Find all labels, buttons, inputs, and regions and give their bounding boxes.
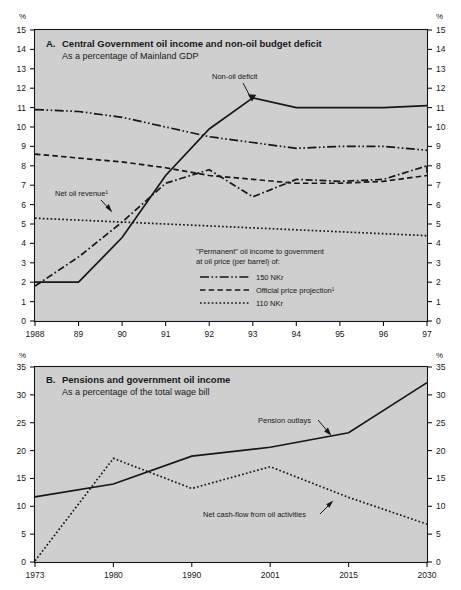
panel-b-unit-right: % <box>436 351 443 360</box>
panel-a: % % 001122334455667788991010111112121313… <box>17 12 446 339</box>
y-tick-label: 20 <box>17 446 27 456</box>
y-tick-label: 10 <box>17 501 27 511</box>
panel-a-annotation-net-oil-revenue: Net oil revenue¹ <box>55 189 108 198</box>
y-tick-label: 15 <box>17 25 27 35</box>
y-tick-label: 30 <box>436 390 446 400</box>
y-tick-label: 4 <box>21 238 26 248</box>
y-tick-label: 13 <box>436 64 446 74</box>
x-tick-label: 95 <box>335 329 345 339</box>
panel-a-x-axis: 1988899091929394959697 <box>26 321 432 339</box>
y-tick-label: 12 <box>436 83 446 93</box>
y-tick-label: 1 <box>436 297 441 307</box>
legend-heading-line2: at oil price (per barrel) of: <box>196 257 280 266</box>
panel-b-title: Pensions and government oil income <box>62 374 230 385</box>
panel-a-subtitle: As a percentage of Mainland GDP <box>62 51 199 61</box>
y-tick-label: 11 <box>436 103 445 113</box>
panel-b-subtitle: As a percentage of the total wage bill <box>62 387 210 397</box>
y-tick-label: 0 <box>436 316 441 326</box>
y-tick-label: 20 <box>436 446 446 456</box>
y-tick-label: 35 <box>17 362 27 372</box>
y-tick-label: 15 <box>436 473 446 483</box>
y-tick-label: 3 <box>21 258 26 268</box>
y-tick-label: 9 <box>436 141 441 151</box>
y-tick-label: 15 <box>436 25 446 35</box>
y-tick-label: 6 <box>21 200 26 210</box>
x-tick-label: 2001 <box>261 570 280 580</box>
y-tick-label: 12 <box>17 83 27 93</box>
panel-b-annotation-net-cash-flow: Net cash-flow from oil activities <box>203 510 306 519</box>
y-tick-label: 14 <box>436 44 446 54</box>
y-tick-label: 9 <box>21 141 26 151</box>
y-tick-label: 30 <box>17 390 27 400</box>
panel-a-annotation-non-oil-deficit: Non-oil deficit <box>212 72 258 81</box>
panel-a-title: Central Government oil income and non-oi… <box>62 38 323 49</box>
x-tick-label: 1973 <box>26 570 45 580</box>
figure-root: % % 001122334455667788991010111112121313… <box>0 0 461 590</box>
y-tick-label: 35 <box>436 362 446 372</box>
legend-label-150nkr: 150 NKr <box>256 273 284 282</box>
x-tick-label: 93 <box>248 329 258 339</box>
panel-a-unit-left: % <box>19 12 26 21</box>
y-tick-label: 13 <box>17 64 27 74</box>
figure-svg: % % 001122334455667788991010111112121313… <box>0 0 461 590</box>
legend-label-110nkr: 110 NKr <box>256 299 283 308</box>
x-tick-label: 2030 <box>418 570 437 580</box>
y-tick-label: 5 <box>21 219 26 229</box>
legend-label-official-price-projection: Official price projection¹ <box>256 286 335 295</box>
y-tick-label: 14 <box>17 44 27 54</box>
panel-b: % % 0055101015152020252530303535 1973198… <box>17 351 446 580</box>
y-tick-label: 10 <box>17 122 27 132</box>
y-tick-label: 0 <box>21 316 26 326</box>
x-tick-label: 91 <box>161 329 171 339</box>
panel-b-letter: B. <box>46 374 56 385</box>
panel-b-x-axis: 197319801990200120152030 <box>26 562 437 580</box>
y-tick-label: 10 <box>436 501 446 511</box>
y-tick-label: 7 <box>436 180 441 190</box>
y-tick-label: 25 <box>17 418 27 428</box>
y-tick-label: 5 <box>21 529 26 539</box>
x-tick-label: 90 <box>117 329 127 339</box>
chart-canvas: % % 001122334455667788991010111112121313… <box>0 0 461 590</box>
y-tick-label: 8 <box>436 161 441 171</box>
x-tick-label: 92 <box>204 329 214 339</box>
y-tick-label: 4 <box>436 238 441 248</box>
y-tick-label: 6 <box>436 200 441 210</box>
y-tick-label: 1 <box>21 297 26 307</box>
y-tick-label: 7 <box>21 180 26 190</box>
x-tick-label: 94 <box>292 329 302 339</box>
x-tick-label: 96 <box>379 329 389 339</box>
panel-a-letter: A. <box>46 38 56 49</box>
panel-b-unit-left: % <box>19 351 26 360</box>
x-tick-label: 1990 <box>182 570 201 580</box>
x-tick-label: 1980 <box>104 570 123 580</box>
panel-b-annotation-pension-outlays: Pension outlays <box>258 416 311 425</box>
y-tick-label: 8 <box>21 161 26 171</box>
y-tick-label: 15 <box>17 473 27 483</box>
y-tick-label: 10 <box>436 122 446 132</box>
y-tick-label: 11 <box>17 103 26 113</box>
y-tick-label: 3 <box>436 258 441 268</box>
panel-a-unit-right: % <box>436 12 443 21</box>
x-tick-label: 89 <box>74 329 84 339</box>
y-tick-label: 0 <box>436 557 441 567</box>
x-tick-label: 2015 <box>339 570 358 580</box>
y-tick-label: 0 <box>21 557 26 567</box>
y-tick-label: 5 <box>436 219 441 229</box>
x-tick-label: 1988 <box>26 329 45 339</box>
legend-heading-line1: "Permanent" oil income to government <box>196 247 325 256</box>
y-tick-label: 2 <box>21 277 26 287</box>
y-tick-label: 25 <box>436 418 446 428</box>
x-tick-label: 97 <box>422 329 432 339</box>
y-tick-label: 2 <box>436 277 441 287</box>
y-tick-label: 5 <box>436 529 441 539</box>
